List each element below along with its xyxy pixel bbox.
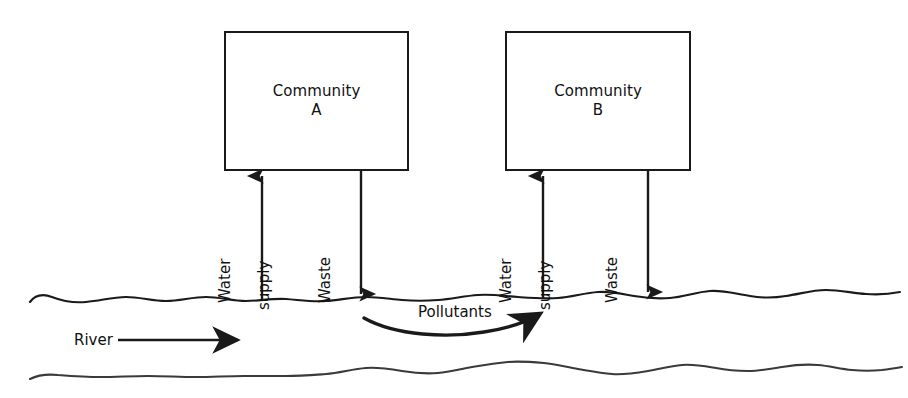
- diagram-canvas: [0, 0, 908, 398]
- river-pollution-diagram: Community A Community B Water supply Was…: [0, 0, 908, 398]
- community-b-title: Community: [554, 82, 642, 101]
- pipe-a-waste-label: Waste: [316, 257, 334, 303]
- community-a-title: Community: [273, 82, 361, 101]
- pipe-b-waste-label: Waste: [603, 257, 621, 303]
- river-bank-bottom: [30, 362, 902, 379]
- river-bank-top: [30, 290, 900, 302]
- pipe-a-water-label: Water: [216, 259, 234, 303]
- community-box-a: Community A: [224, 31, 409, 171]
- community-b-ident: B: [593, 101, 603, 120]
- pollutants-label: Pollutants: [418, 303, 492, 321]
- pipe-b-supply-label: supply: [536, 261, 554, 310]
- pipe-b-water-label: Water: [497, 259, 515, 303]
- river-label: River: [74, 331, 113, 349]
- pipe-a-supply-label: supply: [255, 261, 273, 310]
- community-a-ident: A: [311, 101, 321, 120]
- community-box-b: Community B: [505, 31, 691, 171]
